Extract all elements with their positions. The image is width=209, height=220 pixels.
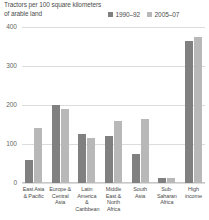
bar[interactable] xyxy=(25,160,33,183)
legend-item-1990-92[interactable]: 1990–92 xyxy=(108,11,140,18)
bar-group xyxy=(182,27,205,183)
bar[interactable] xyxy=(194,37,202,183)
y-axis-tick-300: 300 xyxy=(0,62,17,69)
x-axis-label: South Asia xyxy=(129,186,152,220)
plot-area: 0100200300400 xyxy=(22,27,205,183)
bar-group xyxy=(102,27,125,183)
bar-group xyxy=(49,27,72,183)
bar[interactable] xyxy=(167,178,175,183)
bar[interactable] xyxy=(105,136,113,183)
legend-label-2005-07: 2005–07 xyxy=(155,11,180,18)
legend-swatch-2005-07 xyxy=(147,12,152,17)
y-axis-tick-100: 100 xyxy=(0,140,17,147)
bar[interactable] xyxy=(114,121,122,183)
bar[interactable] xyxy=(141,119,149,183)
bar-group xyxy=(75,27,98,183)
bar[interactable] xyxy=(34,128,42,183)
x-axis-label: Middle East & North Africa xyxy=(102,186,125,220)
x-axis-label: Europe & Central Asia xyxy=(49,186,72,220)
bar-group xyxy=(155,27,178,183)
bar[interactable] xyxy=(185,41,193,183)
y-axis-tick-200: 200 xyxy=(0,101,17,108)
bar[interactable] xyxy=(61,109,69,183)
bar[interactable] xyxy=(78,134,86,183)
chart-header: Tractors per 100 square kilometers of ar… xyxy=(0,0,209,24)
chart-legend: 1990–92 2005–07 xyxy=(108,11,179,18)
x-axis-label: Sub-Saharan Africa xyxy=(155,186,178,220)
bar-group xyxy=(22,27,45,183)
legend-swatch-1990-92 xyxy=(108,12,113,17)
bar[interactable] xyxy=(158,178,166,183)
legend-label-1990-92: 1990–92 xyxy=(116,11,141,18)
bar-groups xyxy=(22,27,205,183)
y-axis-tick-0: 0 xyxy=(0,179,17,186)
chart-container: Tractors per 100 square kilometers of ar… xyxy=(0,0,209,220)
x-axis-label: East Asia & Pacific xyxy=(22,186,45,220)
bar-group xyxy=(129,27,152,183)
x-axis-label: Latin America & Caribbean xyxy=(75,186,98,220)
bar[interactable] xyxy=(132,154,140,183)
bar[interactable] xyxy=(87,138,95,183)
legend-item-2005-07[interactable]: 2005–07 xyxy=(147,11,179,18)
x-axis-label: High income xyxy=(182,186,205,220)
chart-title: Tractors per 100 square kilometers of ar… xyxy=(4,1,104,18)
x-axis-labels: East Asia & PacificEurope & Central Asia… xyxy=(22,186,205,220)
gridline-0 xyxy=(22,183,205,184)
y-axis-tick-400: 400 xyxy=(0,23,17,30)
bar[interactable] xyxy=(52,105,60,183)
